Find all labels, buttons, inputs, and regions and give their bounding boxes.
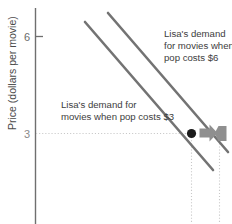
annotation-pop-3-line-1: Lisa's demand for [61, 99, 137, 110]
data-point-pop-3 [187, 129, 196, 138]
annotation-pop-6-line-3: pop costs $6 [164, 52, 218, 63]
chart-canvas: 6 3 Price (dollars per movie) Lisa's dem… [0, 0, 232, 224]
demand-curve-chart: 6 3 Price (dollars per movie) Lisa's dem… [0, 0, 232, 224]
annotation-pop-3-line-2: movies when pop costs $3 [61, 111, 174, 122]
annotation-pop-6-line-1: Lisa's demand [164, 28, 226, 39]
annotation-pop-6-line-2: for movies when [164, 40, 232, 51]
y-tick-label-6: 6 [24, 31, 30, 43]
y-axis-title: Price (dollars per movie) [6, 16, 18, 130]
y-tick-label-3: 3 [24, 128, 30, 140]
